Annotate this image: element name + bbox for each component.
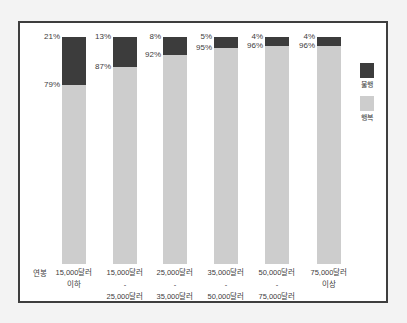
bar-segment-happy	[163, 55, 187, 264]
x-axis-prefix-label: 연봉	[26, 268, 54, 280]
bar-top-pct-label: 5%	[172, 32, 212, 42]
bar-column	[317, 37, 341, 264]
bar-top-pct-label: 13%	[71, 32, 111, 42]
legend-item-unhappy: 불행	[356, 63, 378, 89]
bar-segment-happy	[265, 46, 289, 264]
bar-boundary-pct-label: 95%	[172, 43, 212, 53]
bar-column	[265, 37, 289, 264]
bar-column	[163, 37, 187, 264]
legend-item-happy: 행복	[356, 96, 378, 122]
bar-boundary-pct-label: 96%	[223, 41, 263, 51]
bar-segment-happy	[214, 48, 238, 264]
bar-column	[214, 37, 238, 264]
bar-segment-happy	[317, 46, 341, 264]
legend-swatch-happy	[360, 96, 374, 111]
bar-column	[113, 37, 137, 264]
bar-top-pct-label: 21%	[20, 32, 60, 42]
bar-segment-happy	[113, 67, 137, 264]
legend: 불행 행복	[356, 63, 378, 129]
legend-label-unhappy: 불행	[361, 80, 373, 89]
legend-swatch-unhappy	[360, 63, 374, 78]
bar-boundary-pct-label: 87%	[71, 62, 111, 72]
bar-segment-happy	[62, 85, 86, 264]
bar-category-label: 75,000달러이상	[289, 267, 369, 291]
bar-boundary-pct-label: 96%	[275, 41, 315, 51]
chart-frame: 21%79%15,000달러이하13%87%15,000달러-25,000달러8…	[18, 21, 388, 303]
bar-boundary-pct-label: 92%	[121, 50, 161, 60]
bar-segment-unhappy	[317, 37, 341, 46]
bar-boundary-pct-label: 79%	[20, 80, 60, 90]
legend-label-happy: 행복	[361, 113, 373, 122]
bar-top-pct-label: 8%	[121, 32, 161, 42]
